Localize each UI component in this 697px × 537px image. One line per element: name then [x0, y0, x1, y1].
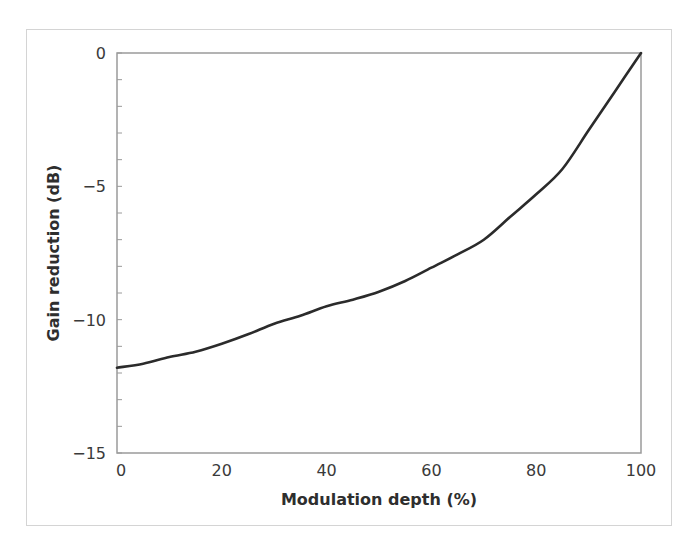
x-axis-title: Modulation depth (%) — [281, 490, 477, 509]
x-tick-label: 100 — [626, 461, 657, 480]
y-axis-title: Gain reduction (dB) — [44, 165, 63, 342]
line-chart: 0−5−10−15 020406080100 Modulation depth … — [0, 0, 697, 537]
y-tick-label: −15 — [72, 444, 106, 463]
y-tick-label: −5 — [82, 177, 106, 196]
x-tick-labels: 020406080100 — [116, 461, 656, 480]
x-tick-label: 60 — [421, 461, 441, 480]
y-tick-label: 0 — [96, 44, 106, 63]
x-tick-label: 40 — [316, 461, 336, 480]
gain-reduction-curve — [117, 53, 641, 368]
plot-area-frame — [117, 53, 641, 453]
x-tick-label: 20 — [212, 461, 232, 480]
x-tick-label: 80 — [526, 461, 546, 480]
y-tick-label: −10 — [72, 311, 106, 330]
y-tick-labels: 0−5−10−15 — [72, 44, 106, 463]
x-tick-label: 0 — [116, 461, 126, 480]
